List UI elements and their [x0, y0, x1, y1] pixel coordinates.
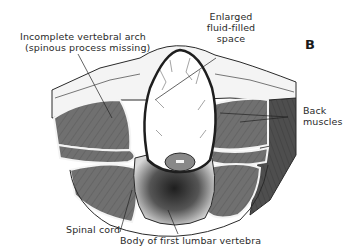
label-line: Back: [303, 105, 343, 116]
label-spinal-cord: Spinal cord: [66, 224, 120, 235]
back-muscle-left-lower: [70, 164, 137, 222]
back-muscle-right-middle: [210, 148, 268, 165]
label-enlarged-fluid-space: Enlarged fluid-filled space: [201, 11, 261, 44]
label-line: (spinous process missing): [20, 42, 150, 53]
label-line: Enlarged: [201, 11, 261, 22]
label-line: fluid-filled: [201, 22, 261, 33]
label-back-muscles: Back muscles: [303, 105, 343, 127]
panel-letter: B: [305, 37, 315, 52]
label-incomplete-vertebral-arch: Incomplete vertebral arch (spinous proce…: [20, 31, 150, 53]
label-line: Incomplete vertebral arch: [20, 31, 150, 42]
label-vertebra-body: Body of first lumbar vertebra: [120, 235, 261, 246]
label-line: space: [201, 33, 261, 44]
label-line: muscles: [303, 116, 343, 127]
spine-cross-section-figure: Incomplete vertebral arch (spinous proce…: [0, 0, 354, 251]
